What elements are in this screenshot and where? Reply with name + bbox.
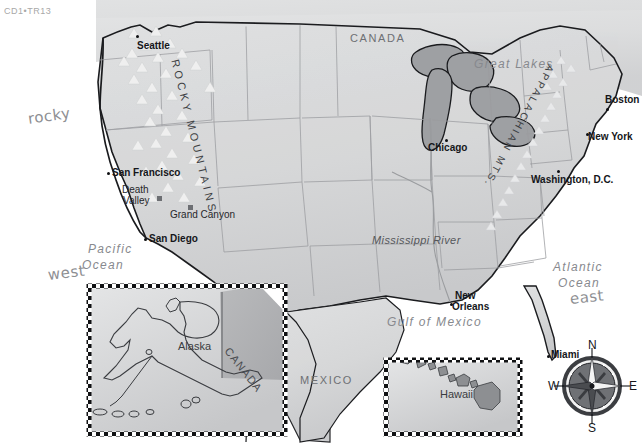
compass-rose-graphic xyxy=(554,348,630,424)
city-marker-washington-dc xyxy=(557,170,560,173)
map-graphic xyxy=(0,0,642,444)
landmark-marker-death-valley xyxy=(157,196,162,201)
handwritten-annotation-east: east xyxy=(569,286,605,307)
city-marker-new-york xyxy=(586,133,589,136)
map-page: CD1•TR13 xyxy=(0,0,642,444)
city-marker-miami xyxy=(547,355,550,358)
city-marker-boston xyxy=(606,108,609,111)
city-marker-new-orleans xyxy=(450,303,453,306)
city-marker-chicago xyxy=(445,139,448,142)
city-marker-san-diego xyxy=(144,238,147,241)
landmark-marker-grand-canyon xyxy=(188,205,193,210)
city-marker-seattle xyxy=(136,35,139,38)
city-marker-san-francisco xyxy=(107,172,110,175)
